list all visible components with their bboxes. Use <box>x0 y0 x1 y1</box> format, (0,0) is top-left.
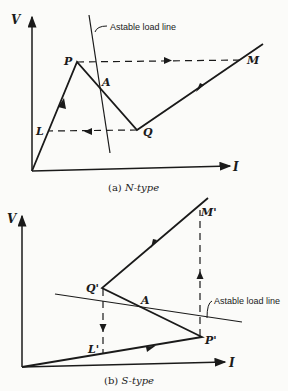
point-l-prime: L' <box>87 343 99 356</box>
i-axis-label-a: I <box>232 160 239 174</box>
v-axis-label-b: V <box>7 212 18 226</box>
i-axis-label-b: I <box>228 356 235 370</box>
arrow-icon-left-ql <box>84 128 92 135</box>
load-line-label-b: Astable load line <box>214 296 280 306</box>
point-a-s: A <box>140 294 150 307</box>
point-q-prime: Q' <box>86 282 99 295</box>
caption-b: (b) S-type <box>104 375 154 386</box>
point-a-n: A <box>101 76 111 89</box>
s-curve <box>22 198 208 367</box>
point-m-prime: M' <box>200 206 217 219</box>
point-p-prime: P' <box>204 334 217 347</box>
point-l: L <box>35 125 44 138</box>
point-p: P <box>63 55 73 68</box>
load-line-label-a: Astable load line <box>110 22 176 32</box>
pointer-load-label-b <box>207 301 212 318</box>
jump-p-m <box>77 60 243 62</box>
jump-q-l <box>48 130 137 131</box>
v-axis-label-a: V <box>11 13 22 27</box>
arrow-icon-down-mq-b <box>151 239 157 248</box>
pointer-load-label-a <box>95 26 107 32</box>
point-q: Q <box>143 126 153 139</box>
arrow-icon-up-pm <box>197 271 204 279</box>
caption-a: (a) N-type <box>108 182 159 193</box>
figure-canvas: V I P A Q L M Astable load line (a) N-ty… <box>0 0 288 391</box>
arrow-icon-down-ql <box>100 324 107 332</box>
arrow-icon-right-pm <box>164 57 172 64</box>
point-m: M <box>246 54 260 67</box>
i-axis-a <box>32 166 230 171</box>
n-type-diagram <box>32 15 263 171</box>
